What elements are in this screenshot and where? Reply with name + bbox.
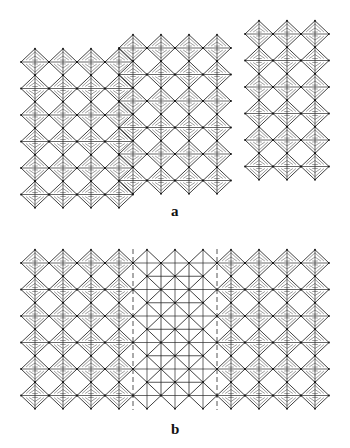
octahedron — [244, 46, 274, 74]
octahedron — [160, 328, 190, 356]
octahedron — [272, 249, 302, 277]
octahedron — [216, 275, 246, 303]
octahedron — [244, 20, 274, 48]
octahedron — [160, 275, 190, 303]
octahedron — [174, 140, 204, 168]
octahedron — [202, 87, 232, 115]
octahedron — [174, 166, 204, 194]
octahedron — [76, 355, 106, 383]
octahedron — [272, 73, 302, 101]
octahedron — [104, 381, 134, 409]
octahedron — [160, 302, 190, 330]
panel-a — [20, 20, 330, 209]
octahedron — [132, 249, 162, 277]
octahedron — [188, 249, 218, 277]
octahedron — [244, 152, 274, 180]
octahedron — [244, 249, 274, 277]
octahedron — [216, 302, 246, 330]
octahedron — [174, 34, 204, 62]
octahedron — [76, 180, 106, 208]
octahedron — [244, 99, 274, 127]
octahedron — [20, 101, 50, 129]
octahedra-figure: a b — [0, 0, 350, 448]
octahedron — [188, 381, 218, 409]
octahedron — [300, 249, 330, 277]
octahedron — [272, 152, 302, 180]
octahedron — [216, 381, 246, 409]
octahedron — [20, 127, 50, 155]
octahedron — [48, 74, 78, 102]
octahedron — [272, 328, 302, 356]
octahedron — [202, 166, 232, 194]
octahedron — [48, 154, 78, 182]
octahedron — [76, 328, 106, 356]
octahedron — [160, 355, 190, 383]
octahedron — [48, 249, 78, 277]
octahedron — [48, 355, 78, 383]
octahedron — [300, 355, 330, 383]
octahedron — [146, 113, 176, 141]
octahedron — [272, 126, 302, 154]
octahedron — [48, 328, 78, 356]
octahedron — [76, 74, 106, 102]
octahedron — [216, 328, 246, 356]
octahedron — [160, 381, 190, 409]
octahedron — [244, 381, 274, 409]
octahedron — [104, 249, 134, 277]
octahedron — [272, 381, 302, 409]
octahedron — [188, 275, 218, 303]
panel-a-right-block — [244, 20, 330, 181]
panel-label-b: b — [171, 421, 179, 438]
panel-a-diagram — [0, 0, 350, 448]
octahedron — [272, 99, 302, 127]
octahedron — [300, 20, 330, 48]
octahedron — [20, 302, 50, 330]
octahedron — [146, 34, 176, 62]
octahedron — [48, 127, 78, 155]
octahedron — [104, 302, 134, 330]
octahedron — [48, 302, 78, 330]
octahedron — [48, 381, 78, 409]
octahedron — [300, 275, 330, 303]
octahedron — [146, 166, 176, 194]
octahedron — [272, 20, 302, 48]
octahedron — [202, 34, 232, 62]
octahedron — [188, 355, 218, 383]
octahedron — [272, 275, 302, 303]
octahedron — [104, 328, 134, 356]
octahedron — [300, 126, 330, 154]
octahedron — [48, 101, 78, 129]
octahedron — [300, 302, 330, 330]
octahedron — [76, 127, 106, 155]
panel-b — [20, 249, 330, 410]
panel-a-left-block — [20, 48, 134, 209]
octahedron — [300, 46, 330, 74]
octahedron — [202, 113, 232, 141]
octahedron — [132, 302, 162, 330]
octahedron — [272, 355, 302, 383]
panel-a-middle-block — [118, 34, 232, 195]
octahedron — [20, 381, 50, 409]
octahedron — [48, 180, 78, 208]
octahedron — [300, 152, 330, 180]
octahedron — [146, 87, 176, 115]
octahedron — [76, 302, 106, 330]
octahedron — [188, 302, 218, 330]
octahedron — [202, 60, 232, 88]
octahedron — [174, 87, 204, 115]
octahedron — [76, 101, 106, 129]
octahedron — [20, 355, 50, 383]
octahedron — [202, 140, 232, 168]
octahedron — [244, 275, 274, 303]
octahedron — [20, 180, 50, 208]
octahedron — [20, 275, 50, 303]
octahedron — [76, 48, 106, 76]
panel-b-middle-block — [132, 249, 218, 410]
octahedron — [20, 48, 50, 76]
octahedron — [104, 275, 134, 303]
octahedron — [76, 275, 106, 303]
octahedron — [132, 355, 162, 383]
panel-label-a: a — [171, 203, 179, 220]
octahedron — [132, 275, 162, 303]
octahedron — [300, 99, 330, 127]
